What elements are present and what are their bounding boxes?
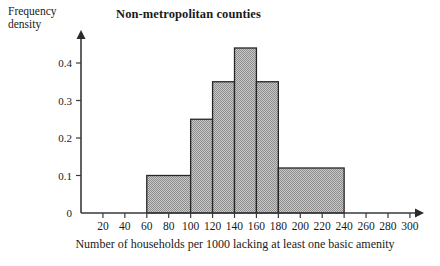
x-tick-label: 20 [97, 220, 109, 232]
histogram-bar [235, 48, 257, 213]
y-axis-title-line2: density [8, 18, 41, 31]
y-axis-arrowhead-icon [77, 30, 86, 39]
chart-canvas: 2040608010012014016018020022024026028030… [0, 0, 440, 266]
y-tick-label: 0.1 [58, 170, 72, 182]
histogram-bar [213, 82, 235, 213]
y-tick-label: 0.3 [58, 95, 72, 107]
x-tick-label: 220 [314, 220, 332, 232]
histogram-bar [278, 168, 344, 213]
x-tick-label: 140 [226, 220, 244, 232]
x-axis-ticks: 2040608010012014016018020022024026028030… [97, 213, 419, 232]
histogram-chart: 2040608010012014016018020022024026028030… [0, 0, 440, 266]
histogram-bar [191, 119, 213, 213]
x-tick-label: 60 [141, 220, 153, 232]
x-tick-label: 200 [292, 220, 310, 232]
chart-title: Non-metropolitan counties [116, 7, 261, 21]
x-axis-title: Number of households per 1000 lacking at… [75, 237, 394, 251]
histogram-bar [256, 82, 278, 213]
histogram-bar [147, 176, 191, 214]
bars-group [147, 48, 344, 213]
y-tick-label: 0.2 [58, 132, 72, 144]
y-axis-title-line1: Frequency [8, 5, 57, 18]
y-axis-ticks: 00.10.20.30.4 [58, 57, 81, 219]
x-tick-label: 80 [163, 220, 175, 232]
x-tick-label: 180 [270, 220, 288, 232]
x-tick-label: 160 [248, 220, 266, 232]
x-axis-arrowhead-icon [415, 209, 424, 218]
x-tick-label: 40 [119, 220, 131, 232]
x-tick-label: 260 [357, 220, 375, 232]
x-tick-label: 100 [182, 220, 200, 232]
x-tick-label: 120 [204, 220, 222, 232]
x-tick-label: 280 [379, 220, 397, 232]
y-tick-label: 0 [67, 207, 73, 219]
y-tick-label: 0.4 [58, 57, 72, 69]
x-tick-label: 300 [401, 220, 419, 232]
x-tick-label: 240 [336, 220, 354, 232]
